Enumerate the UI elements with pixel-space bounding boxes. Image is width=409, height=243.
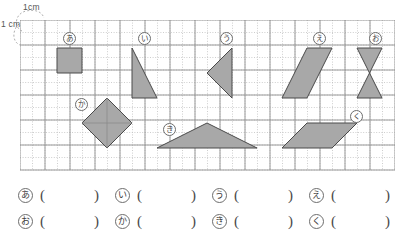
shape-square [57,48,82,73]
shape-label-square: あ [63,32,76,45]
answer-row: あ()い()う()え() [18,183,409,207]
answer-key-label: い [115,188,130,203]
answer-item: あ() [18,188,115,203]
shape-layer [20,20,395,175]
answer-key-label: う [212,188,227,203]
answer-blank[interactable] [142,214,191,228]
shape-label-thin-slanted-parallelogram: く [350,110,363,123]
answer-key-label: き [212,214,227,229]
answer-row: お()か()き()く() [18,209,409,233]
close-paren: ) [191,214,196,229]
shape-parallelogram [282,48,332,98]
answer-item: う() [212,188,309,203]
shape-left-pointing-triangle [207,48,232,98]
answer-key-label: お [18,214,33,229]
shape-label-right-triangle: い [138,32,151,45]
shape-thin-slanted-parallelogram [282,123,357,148]
answer-key-label: え [309,188,324,203]
shape-label-hourglass-bowtie: お [369,32,382,45]
close-paren: ) [385,214,390,229]
shape-label-diamond-rhombus: か [75,98,88,111]
answer-blank[interactable] [336,188,385,202]
shape-hourglass-bowtie [357,48,382,73]
answer-blank[interactable] [239,188,288,202]
answer-blank[interactable] [142,188,191,202]
scale-label-vertical: 1 cm [1,19,20,29]
close-paren: ) [385,188,390,203]
shape-hourglass-bowtie [357,73,382,98]
answer-item: か() [115,214,212,229]
close-paren: ) [288,188,293,203]
answer-key-label: く [309,214,324,229]
shape-label-wide-flat-triangle: き [163,123,176,136]
shape-right-triangle [132,48,157,98]
answer-blank[interactable] [45,214,94,228]
scale-label-horizontal: 1cm [23,2,40,12]
close-paren: ) [191,188,196,203]
answer-blank[interactable] [336,214,385,228]
answer-key-label: か [115,214,130,229]
shape-label-parallelogram: え [313,32,326,45]
worksheet: あいうえおかきく 1cm 1 cm あ()い()う()え() お()か()き()… [0,0,409,243]
answer-item: お() [18,214,115,229]
shape-label-left-pointing-triangle: う [220,32,233,45]
answer-blank[interactable] [239,214,288,228]
answer-key-label: あ [18,188,33,203]
close-paren: ) [94,188,99,203]
grid-area: あいうえおかきく [20,20,395,175]
answer-section: あ()い()う()え() お()か()き()く() [0,180,409,243]
answer-item: い() [115,188,212,203]
answer-blank[interactable] [45,188,94,202]
answer-item: え() [309,188,406,203]
close-paren: ) [94,214,99,229]
answer-item: き() [212,214,309,229]
answer-item: く() [309,214,406,229]
close-paren: ) [288,214,293,229]
